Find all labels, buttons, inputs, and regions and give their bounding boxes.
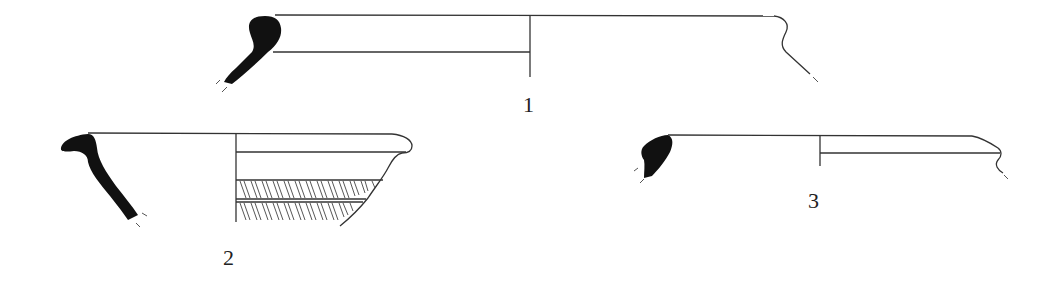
vessel-1-rim-line — [275, 15, 774, 16]
vessel-1-drawing — [216, 15, 818, 92]
vessel-1-exterior-profile — [774, 16, 810, 74]
vessel-1-number: 1 — [523, 94, 534, 116]
vessel-2-drawing — [61, 133, 412, 227]
vessel-3-section — [641, 135, 672, 178]
vessel-2-number: 2 — [223, 247, 234, 269]
vessel-3-drawing — [634, 135, 1008, 183]
pottery-figure — [0, 0, 1055, 285]
vessel-2-incised-decoration — [240, 181, 375, 220]
vessel-3-number: 3 — [808, 190, 819, 212]
vessel-2-rim-line — [88, 133, 392, 134]
vessel-1-section — [224, 16, 281, 84]
vessel-3-exterior-profile — [972, 136, 1003, 173]
vessel-2-section — [61, 134, 138, 220]
